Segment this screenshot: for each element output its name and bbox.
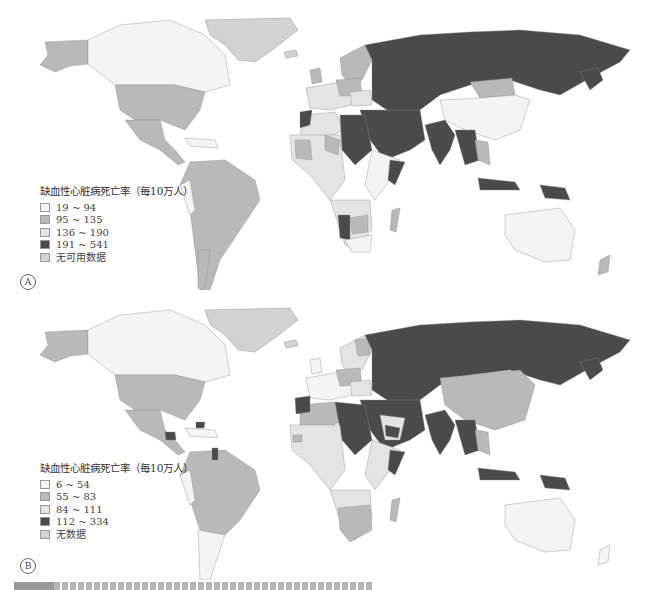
legend-title: 缺血性心脏病死亡率（每10万人） <box>40 185 193 198</box>
legend-b: 缺血性心脏病死亡率（每10万人） 6 ~ 54 55 ~ 83 84 ~ 111… <box>40 462 193 541</box>
legend-label: 95 ~ 135 <box>56 213 103 226</box>
legend-item: 191 ~ 541 <box>40 239 193 252</box>
legend-label: 6 ~ 54 <box>56 478 90 491</box>
legend-label: 无数据 <box>56 528 86 541</box>
legend-label: 无可用数据 <box>56 251 106 264</box>
legend-swatch <box>40 530 50 539</box>
legend-swatch <box>40 517 50 526</box>
legend-item: 112 ~ 334 <box>40 516 193 529</box>
map-panel-a: 缺血性心脏病死亡率（每10万人） 19 ~ 94 95 ~ 135 136 ~ … <box>0 0 651 290</box>
legend-item: 136 ~ 190 <box>40 226 193 239</box>
legend-label: 55 ~ 83 <box>56 490 96 503</box>
legend-swatch <box>40 505 50 514</box>
legend-swatch <box>40 480 50 489</box>
legend-swatch <box>40 492 50 501</box>
legend-item: 55 ~ 83 <box>40 491 193 504</box>
legend-item: 6 ~ 54 <box>40 478 193 491</box>
legend-label: 191 ~ 541 <box>56 238 109 251</box>
panel-badge-b: B <box>20 558 36 574</box>
figure-caption-clipped <box>14 582 374 590</box>
legend-item: 无可用数据 <box>40 251 193 264</box>
legend-swatch <box>40 253 50 262</box>
legend-swatch <box>40 203 50 212</box>
legend-item: 无数据 <box>40 528 193 541</box>
legend-label: 19 ~ 94 <box>56 201 96 214</box>
legend-title: 缺血性心脏病死亡率（每10万人） <box>40 462 193 475</box>
legend-swatch <box>40 228 50 237</box>
legend-swatch <box>40 215 50 224</box>
legend-label: 136 ~ 190 <box>56 226 109 239</box>
legend-item: 19 ~ 94 <box>40 201 193 214</box>
legend-item: 84 ~ 111 <box>40 503 193 516</box>
legend-label: 112 ~ 334 <box>56 515 109 528</box>
legend-label: 84 ~ 111 <box>56 503 103 516</box>
legend-item: 95 ~ 135 <box>40 214 193 227</box>
panel-badge-a: A <box>20 274 36 290</box>
map-panel-b: 缺血性心脏病死亡率（每10万人） 6 ~ 54 55 ~ 83 84 ~ 111… <box>0 290 651 580</box>
legend-swatch <box>40 240 50 249</box>
legend-a: 缺血性心脏病死亡率（每10万人） 19 ~ 94 95 ~ 135 136 ~ … <box>40 185 193 264</box>
